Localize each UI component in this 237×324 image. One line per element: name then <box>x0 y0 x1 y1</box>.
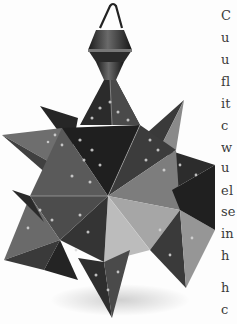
text-line: w <box>221 141 232 155</box>
text-line: se <box>221 205 236 219</box>
star-lantern-photo <box>0 0 215 324</box>
text-line: fl <box>221 75 230 89</box>
text-line: in <box>221 227 234 241</box>
text-line: C <box>221 9 231 23</box>
text-line: h <box>221 281 230 295</box>
text-line: h <box>221 249 230 263</box>
text-line: u <box>221 31 230 45</box>
text-line: c <box>221 119 228 133</box>
text-line: it <box>221 97 231 111</box>
text-line: u <box>221 161 230 175</box>
scanned-page: C u u fl it c w u el se in h h c <box>0 0 237 324</box>
text-line: el <box>221 184 233 198</box>
text-line: c <box>221 303 228 317</box>
body-text-column: C u u fl it c w u el se in h h c <box>221 0 237 324</box>
text-line: u <box>221 53 230 67</box>
